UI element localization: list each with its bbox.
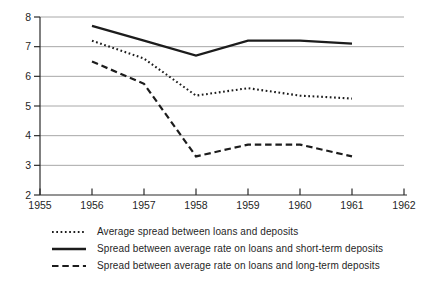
y-tick-label: 5 [25, 100, 31, 112]
y-tick-label: 6 [25, 70, 31, 82]
chart-container: 234567819551956195719581959196019611962 … [0, 0, 432, 287]
series-line-dashed [92, 62, 352, 157]
y-tick-label: 7 [25, 40, 31, 52]
x-tick-label: 1962 [392, 199, 416, 211]
legend-label: Spread between average rate on loans and… [97, 260, 380, 271]
y-tick-label: 3 [25, 159, 31, 171]
legend-label: Average spread between loans and deposit… [97, 226, 298, 237]
chart-legend: Average spread between loans and deposit… [0, 223, 432, 274]
series-line-dotted [92, 41, 352, 99]
x-tick-label: 1957 [132, 199, 156, 211]
x-tick-label: 1958 [184, 199, 208, 211]
solid-line-sample [52, 246, 86, 252]
dotted-line-sample [52, 229, 86, 235]
legend-item: Spread between average rate on loans and… [52, 240, 432, 257]
x-tick-label: 1959 [236, 199, 260, 211]
y-tick-label: 4 [25, 129, 31, 141]
dashed-line-sample [52, 263, 86, 269]
x-tick-label: 1960 [288, 199, 312, 211]
y-tick-label: 8 [25, 11, 31, 23]
line-chart: 234567819551956195719581959196019611962 [0, 0, 432, 216]
legend-item: Spread between average rate on loans and… [52, 257, 432, 274]
legend-item: Average spread between loans and deposit… [52, 223, 432, 240]
x-tick-label: 1955 [28, 199, 52, 211]
x-tick-label: 1961 [340, 199, 364, 211]
legend-label: Spread between average rate on loans and… [97, 243, 383, 254]
x-tick-label: 1956 [80, 199, 104, 211]
series-line-solid [92, 26, 352, 56]
